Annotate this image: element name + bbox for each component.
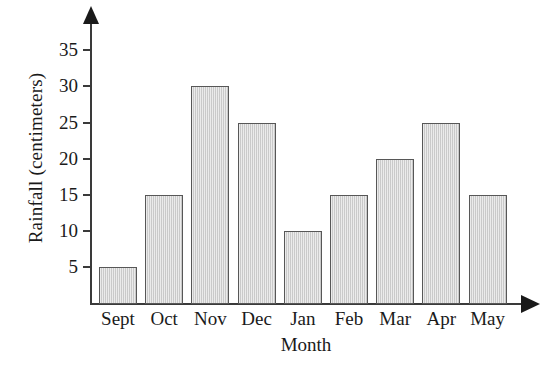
x-axis-arrow-icon bbox=[521, 295, 540, 313]
x-axis-label-oct: Oct bbox=[139, 308, 189, 330]
plot-area: 5101520253035 SeptOctNovDecJanFebMarAprM… bbox=[0, 0, 548, 366]
bar-feb bbox=[330, 195, 368, 304]
y-axis-title: Rainfall (centimeters) bbox=[25, 48, 47, 268]
x-axis-label-dec: Dec bbox=[232, 308, 282, 330]
y-axis-tick-mark bbox=[83, 85, 92, 87]
x-axis-label-jan: Jan bbox=[278, 308, 328, 330]
x-axis-label-sept: Sept bbox=[93, 308, 143, 330]
y-axis-tick-mark bbox=[83, 122, 92, 124]
x-axis-label-apr: Apr bbox=[416, 308, 466, 330]
bar-oct bbox=[145, 195, 183, 304]
x-axis-label-nov: Nov bbox=[185, 308, 235, 330]
x-axis-label-mar: Mar bbox=[370, 308, 420, 330]
y-axis-tick-mark bbox=[83, 158, 92, 160]
y-axis-tick-mark bbox=[83, 49, 92, 51]
y-axis-tick-mark bbox=[83, 230, 92, 232]
bar-apr bbox=[422, 123, 460, 305]
bar-jan bbox=[284, 231, 322, 304]
bar-mar bbox=[376, 159, 414, 304]
y-axis-tick-mark bbox=[83, 194, 92, 196]
bar-nov bbox=[191, 86, 229, 304]
x-axis-label-feb: Feb bbox=[324, 308, 374, 330]
y-axis-line bbox=[90, 22, 92, 305]
rainfall-bar-chart: 5101520253035 SeptOctNovDecJanFebMarAprM… bbox=[0, 0, 548, 366]
bar-dec bbox=[238, 123, 276, 305]
bar-may bbox=[469, 195, 507, 304]
x-axis-title: Month bbox=[99, 334, 513, 356]
y-axis-arrow-icon bbox=[83, 6, 99, 24]
y-axis-tick-mark bbox=[83, 266, 92, 268]
bar-sept bbox=[99, 267, 137, 304]
x-axis-label-may: May bbox=[463, 308, 513, 330]
